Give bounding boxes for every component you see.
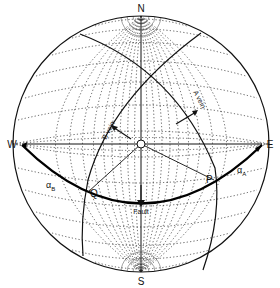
line-center-to-q <box>88 144 141 192</box>
point-q-label: Q <box>90 188 98 199</box>
line-center-to-p <box>141 144 214 180</box>
stereonet-diagram: N S E W A vein B vein Fault Q P αB αA <box>0 0 280 288</box>
fault-label: Fault <box>133 208 149 215</box>
alpha-b-label: αB <box>46 180 55 192</box>
north-label: N <box>137 3 144 14</box>
alpha-a-label: αA <box>237 165 246 177</box>
fault-great-circle <box>22 145 262 204</box>
west-label: W <box>7 139 17 150</box>
a-vein-arrowhead-icon <box>192 110 198 116</box>
east-label: E <box>267 139 274 150</box>
a-vein-great-circle <box>80 34 217 270</box>
center-marker <box>137 140 145 148</box>
point-p-label: P <box>206 174 213 185</box>
south-label: S <box>138 276 145 287</box>
